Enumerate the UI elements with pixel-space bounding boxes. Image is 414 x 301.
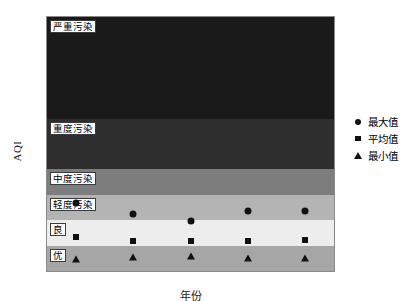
legend-label: 平均值: [368, 131, 398, 146]
data-point-circle: [130, 210, 137, 217]
y-tick-mark: [46, 169, 47, 170]
legend: 最大值 平均值 最小值: [352, 113, 398, 164]
data-point-circle: [302, 208, 309, 215]
data-point-circle: [72, 200, 79, 207]
data-point-square: [130, 238, 136, 244]
y-tick-mark: [46, 245, 47, 246]
y-axis-title: AQI: [11, 140, 23, 161]
data-point-square: [302, 237, 308, 243]
plot-area: 优良轻度污染中度污染重度污染严重污染0501001502002503003504…: [46, 16, 335, 272]
x-tick-mark: [247, 271, 248, 272]
x-axis-title: 年份: [46, 287, 335, 301]
legend-item-mean: 平均值: [352, 130, 398, 147]
data-point-triangle: [129, 254, 137, 261]
x-tick-mark: [305, 271, 306, 272]
data-point-triangle: [301, 254, 309, 261]
y-tick-mark: [46, 194, 47, 195]
legend-label: 最大值: [368, 114, 398, 129]
band-label: 良: [50, 223, 66, 236]
band-label: 严重污染: [50, 20, 96, 33]
data-point-square: [73, 234, 79, 240]
legend-item-min: 最小值: [352, 147, 398, 164]
band-label: 优: [50, 249, 66, 262]
y-tick-mark: [46, 118, 47, 119]
y-tick-mark: [46, 17, 47, 18]
legend-item-max: 最大值: [352, 113, 398, 130]
y-tick-mark: [46, 271, 47, 272]
y-tick-mark: [46, 220, 47, 221]
square-marker-icon: [352, 136, 364, 142]
circle-marker-icon: [352, 119, 364, 125]
aqi-band-chart: AQI 优良轻度污染中度污染重度污染严重污染050100150200250300…: [0, 0, 414, 301]
legend-label: 最小值: [368, 148, 398, 163]
band-label: 重度污染: [50, 122, 96, 135]
data-point-triangle: [244, 254, 252, 261]
data-point-triangle: [187, 252, 195, 259]
triangle-marker-icon: [352, 152, 364, 159]
data-point-circle: [244, 208, 251, 215]
data-point-circle: [187, 218, 194, 225]
x-tick-mark: [75, 271, 76, 272]
y-tick-mark: [46, 144, 47, 145]
y-tick-mark: [46, 42, 47, 43]
band-label: 中度污染: [50, 172, 96, 185]
x-tick-mark: [190, 271, 191, 272]
data-point-square: [188, 238, 194, 244]
y-tick-mark: [46, 93, 47, 94]
data-point-triangle: [72, 255, 80, 262]
x-tick-mark: [133, 271, 134, 272]
data-point-square: [245, 238, 251, 244]
y-tick-mark: [46, 67, 47, 68]
